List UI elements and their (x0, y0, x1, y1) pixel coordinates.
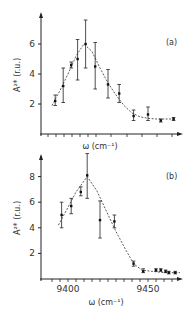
data-point (79, 187, 83, 196)
data-points (53, 20, 175, 122)
data-point (61, 68, 65, 103)
panel-a: 246 (a) ω (cm⁻¹) A²* (r.u.) (13, 12, 183, 151)
y-ticks: 246 (29, 39, 41, 109)
data-point (98, 201, 102, 238)
x-axis-title: ω (cm⁻¹) (82, 142, 117, 151)
data-point (132, 110, 136, 121)
data-point (172, 118, 176, 121)
y-tick-label: 6 (29, 197, 35, 207)
panel-label: (b) (166, 172, 177, 181)
data-point (84, 20, 88, 68)
y-tick-label: 6 (29, 39, 35, 49)
data-point (69, 198, 73, 213)
data-point (106, 70, 110, 99)
data-point (132, 261, 136, 266)
data-point (76, 40, 80, 81)
y-tick-label: 2 (29, 248, 35, 258)
y-ticks: 2468 (29, 172, 41, 259)
figure: 246 (a) ω (cm⁻¹) A²* (r.u.) 2468 9400945… (0, 0, 194, 313)
data-point (53, 95, 57, 106)
fit-curve (52, 44, 174, 119)
data-point (117, 85, 121, 103)
y-axis-title: A²* (r.u.) (13, 201, 22, 235)
data-points (60, 154, 177, 274)
panel-b: 2468 94009450 (b) ω (cm⁻¹) A²* (r.u.) (13, 154, 183, 307)
x-axis-arrow-icon (177, 132, 183, 136)
x-ticks: 94009450 (52, 279, 172, 294)
x-axis-arrow-icon (177, 277, 183, 281)
panel-label: (a) (166, 38, 177, 47)
y-tick-label: 8 (29, 172, 35, 182)
y-axis-arrow-icon (39, 154, 43, 160)
data-point (93, 43, 97, 90)
x-axis-title: ω (cm⁻¹) (88, 298, 123, 307)
data-point (69, 62, 73, 68)
data-point (60, 202, 64, 228)
data-point (159, 269, 163, 272)
data-point (154, 269, 158, 272)
data-point (85, 154, 89, 199)
y-axis-arrow-icon (39, 12, 43, 18)
x-tick-label: 9400 (57, 284, 80, 294)
y-tick-label: 4 (29, 223, 35, 233)
y-tick-label: 4 (29, 69, 35, 79)
data-point (164, 270, 168, 273)
x-tick-label: 9450 (137, 284, 160, 294)
y-axis-title: A²* (r.u.) (13, 58, 22, 92)
y-tick-label: 2 (29, 99, 35, 109)
fit-curve (58, 177, 180, 273)
data-point (159, 119, 163, 122)
